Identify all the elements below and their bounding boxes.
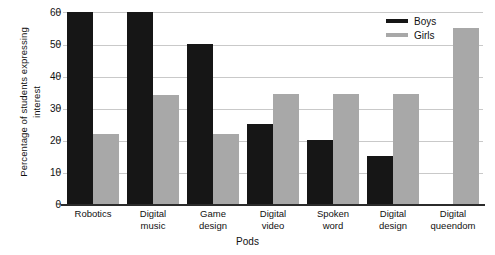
x-tick-label: Digital video [243,208,303,232]
bar-girls [93,134,119,204]
legend-swatch-icon [386,33,408,37]
y-tick-mark [56,140,61,141]
x-tick-label: Robotics [63,208,123,220]
x-tick-label: Digital music [123,208,183,232]
x-tick-label: Game design [183,208,243,232]
legend-item: Girls [386,28,436,42]
x-tick-label: Digital queendom [423,208,483,232]
y-tick-mark [56,12,61,13]
bar-boys [367,156,393,204]
legend-item: Boys [386,14,436,28]
legend-label: Boys [414,16,436,27]
x-tick-label: Spoken word [303,208,363,232]
bar-girls [333,94,359,204]
bar-chart: Percentage of students expressing intere… [0,0,495,255]
y-axis-ticks: 0102030405060 [31,0,61,255]
bar-boys [127,12,153,204]
y-tick-mark [56,172,61,173]
bar-group [123,13,183,204]
bar-girls [153,95,179,204]
bar-boys [307,140,333,204]
bar-group [63,13,123,204]
bar-boys [67,12,93,204]
y-tick-mark [56,108,61,109]
bar-group [243,13,303,204]
x-axis-line [61,204,485,206]
bar-boys [187,44,213,204]
bar-group [303,13,363,204]
bar-group [183,13,243,204]
legend: BoysGirls [386,14,436,42]
x-tick-label: Digital design [363,208,423,232]
bar-girls [453,28,479,204]
y-tick-mark [56,76,61,77]
legend-swatch-icon [386,19,408,23]
x-axis-title: Pods [0,236,495,247]
y-tick-mark [56,44,61,45]
bar-girls [273,94,299,204]
legend-label: Girls [414,30,435,41]
bar-girls [213,134,239,204]
bar-girls [393,94,419,204]
bar-boys [247,124,273,204]
